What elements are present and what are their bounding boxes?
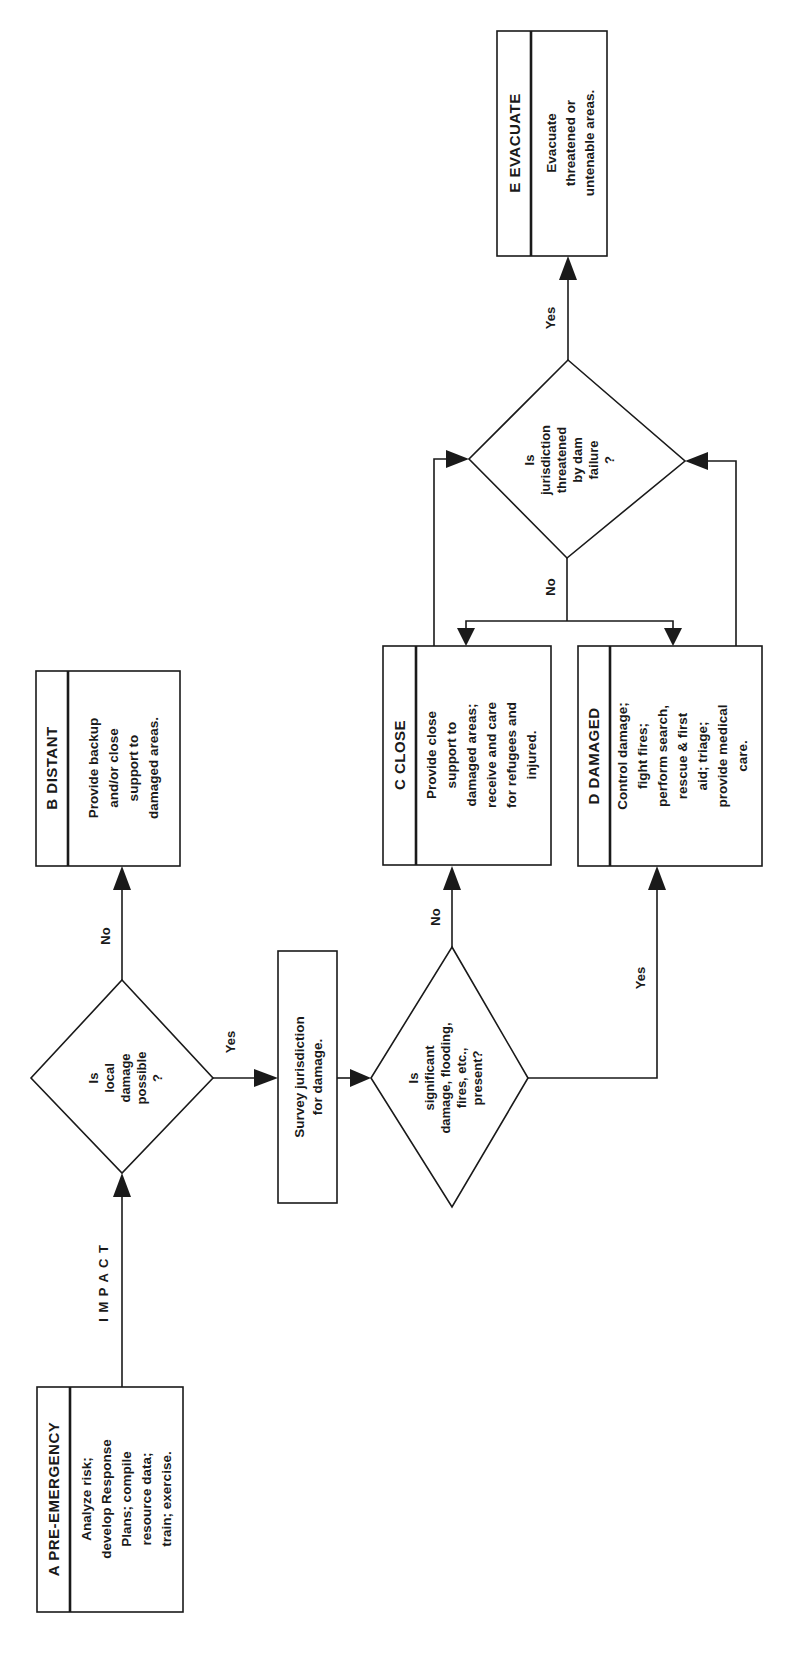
node-e-line: untenable areas.	[582, 90, 597, 197]
arrow-down-icon	[664, 628, 682, 646]
node-c-line: support to	[444, 722, 459, 789]
edge-d-to-q3	[702, 461, 736, 646]
survey-line: Survey jurisdiction	[292, 1016, 307, 1138]
label-q1-no: No	[98, 927, 113, 944]
node-d-header: D DAMAGED	[585, 708, 602, 805]
q1-line: possible	[134, 1052, 149, 1105]
arrow-up-icon	[559, 256, 577, 280]
node-d-line: rescue & first	[675, 712, 690, 799]
q3-line: by dam	[570, 437, 585, 483]
node-d-line: fight fires;	[635, 723, 650, 789]
node-b-distant: B DISTANT Provide backup and/or close su…	[36, 671, 180, 866]
label-q1-yes: Yes	[223, 1031, 238, 1053]
node-d-damaged: D DAMAGED Control damage; fight fires; p…	[578, 646, 762, 866]
arrow-up-icon	[113, 866, 131, 890]
arrow-up-icon	[648, 866, 666, 890]
q2-line: Is	[406, 1073, 421, 1084]
q1-line: ?	[150, 1074, 165, 1082]
node-b-line: Provide backup	[86, 718, 101, 819]
edge-c-to-q3	[434, 459, 452, 646]
decision-q1-local-damage: Is local damage possible ?	[31, 980, 213, 1173]
node-b-header: B DISTANT	[43, 726, 60, 809]
node-b-line: support to	[126, 735, 141, 802]
decision-q2-significant-damage: Is significant damage, flooding, fires, …	[371, 947, 528, 1207]
q2-line: significant	[422, 1045, 437, 1111]
arrow-right-icon	[254, 1069, 278, 1087]
arrow-up-icon	[443, 866, 461, 890]
q1-line: damage	[118, 1053, 133, 1102]
node-a-line: develop Response	[99, 1439, 114, 1559]
node-a-pre-emergency: A PRE-EMERGENCY Analyze risk; develop Re…	[37, 1387, 183, 1612]
label-q3-yes: Yes	[543, 307, 558, 329]
edge-q3-to-d	[567, 621, 673, 630]
q3-line: threatened	[554, 427, 569, 494]
label-q2-no: No	[428, 908, 443, 925]
arrow-up-icon	[113, 1173, 131, 1197]
q3-line: jurisdiction	[538, 425, 553, 496]
q1-line: Is	[86, 1073, 101, 1084]
node-c-line: receive and care	[484, 702, 499, 808]
edge-q3-to-c	[466, 621, 567, 630]
node-a-line: resource data;	[139, 1452, 154, 1545]
node-d-line: perform search,	[655, 705, 670, 807]
q2-line: fires, etc.,	[454, 1048, 469, 1109]
survey-line: for damage.	[310, 1039, 325, 1116]
node-c-line: injured.	[524, 731, 539, 780]
arrow-down-icon	[457, 628, 475, 646]
node-c-line: damaged areas;	[464, 704, 479, 807]
node-b-line: and/or close	[106, 728, 121, 808]
node-e-line: Evacuate	[544, 113, 559, 173]
node-c-line: for refugees and	[504, 702, 519, 808]
q1-line: local	[102, 1063, 117, 1093]
flowchart: I M P A C T No Yes No Yes No Yes A PRE-E…	[0, 0, 785, 1672]
node-d-line: aid; triage;	[695, 721, 710, 790]
label-q2-yes: Yes	[633, 967, 648, 989]
q3-line: ?	[602, 456, 617, 464]
node-a-header: A PRE-EMERGENCY	[45, 1422, 62, 1576]
node-a-line: Analyze risk;	[79, 1457, 94, 1540]
q3-line: Is	[522, 455, 537, 466]
node-c-header: C CLOSE	[391, 720, 408, 790]
node-d-line: provide medical	[715, 705, 730, 808]
node-e-header: E EVACUATE	[506, 93, 523, 192]
arrow-right-icon	[350, 1069, 371, 1087]
node-c-line: Provide close	[424, 711, 439, 799]
label-impact: I M P A C T	[96, 1244, 111, 1322]
node-d-line: care.	[735, 740, 750, 772]
node-a-line: Plans; compile	[119, 1451, 134, 1547]
q3-line: failure	[586, 440, 601, 479]
node-b-line: damaged areas.	[146, 717, 161, 819]
decision-q3-dam-failure: Is jurisdiction threatened by dam failur…	[469, 360, 685, 558]
arrow-right-icon	[446, 450, 469, 468]
node-a-line: train; exercise.	[159, 1451, 174, 1546]
arrow-left-icon	[685, 452, 708, 470]
node-c-close: C CLOSE Provide close support to damaged…	[383, 646, 551, 865]
q2-line: present?	[470, 1050, 485, 1105]
node-e-line: threatened or	[563, 99, 578, 186]
node-e-evacuate: E EVACUATE Evacuate threatened or untena…	[497, 31, 607, 256]
q2-line: damage, flooding,	[438, 1022, 453, 1133]
label-q3-no: No	[543, 578, 558, 595]
node-survey: Survey jurisdiction for damage.	[278, 951, 337, 1203]
node-d-line: Control damage;	[615, 702, 630, 809]
